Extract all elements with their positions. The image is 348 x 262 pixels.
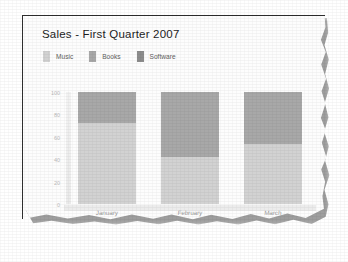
bar-segment-january-music [78, 123, 136, 204]
bar-segment-february-books [161, 92, 219, 157]
y-tick-20: 20 [44, 180, 60, 186]
bar-march [244, 92, 302, 204]
plot-area: 100806040200 JanuaryFebruaryMarch [22, 15, 327, 221]
bar-segment-march-books [244, 92, 302, 144]
bar-segment-february-music [161, 157, 219, 204]
bar-segment-january-books [78, 92, 136, 123]
x-label-february: February [160, 209, 220, 216]
bar-february [161, 92, 219, 204]
bar-january [78, 92, 136, 204]
y-tick-0: 0 [44, 202, 60, 208]
y-axis-band [66, 92, 71, 204]
y-tick-80: 80 [44, 112, 60, 118]
bar-segment-march-music [244, 144, 302, 204]
y-tick-100: 100 [44, 90, 60, 96]
scanned-chart-image: Sales - First Quarter 2007 Music Books S… [0, 0, 348, 262]
y-tick-40: 40 [44, 157, 60, 163]
x-label-march: March [243, 209, 303, 216]
chart-card: Sales - First Quarter 2007 Music Books S… [22, 15, 327, 221]
y-tick-60: 60 [44, 135, 60, 141]
x-label-january: January [77, 209, 137, 216]
